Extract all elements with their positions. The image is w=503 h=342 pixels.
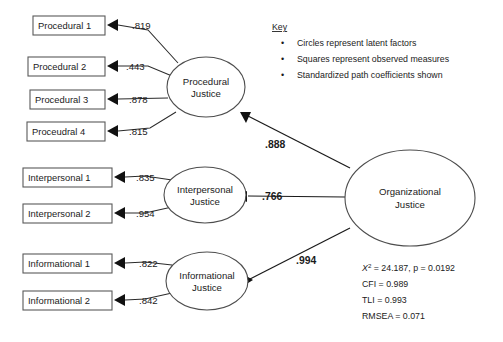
observed-label-interpersonal-2: Interpersonal 2 [28, 208, 91, 219]
structural-value-interpersonal: .766 [262, 191, 282, 202]
observed-label-procedural-2: Procedural 2 [33, 61, 86, 72]
loading-value-procedural-4: .815 [129, 126, 148, 137]
structural-value-informational: .994 [296, 255, 316, 266]
chi-square-rest: = 24.187, p = 0.0192 [371, 263, 455, 273]
fit-statistics: X2 = 24.187, p = 0.0192 CFI = 0.989 TLI … [361, 262, 455, 322]
latent-ellipse-interpersonal[interactable] [164, 167, 246, 223]
latent-label-procedural-line1: Procedural [183, 76, 229, 87]
structural-coefficient-labels: .888 .766 .994 [262, 139, 316, 266]
latent-factor-interpersonal[interactable]: Interpersonal Justice [164, 167, 246, 223]
latent-ellipse-procedural[interactable] [167, 57, 245, 117]
key-item-3: Standardized path coefficients shown [297, 70, 443, 80]
observed-label-procedural-3: Procedural 3 [35, 94, 88, 105]
key-item-1: Circles represent latent factors [297, 38, 417, 48]
observed-label-procedural-4: Proceudral 4 [32, 126, 85, 137]
observed-label-procedural-1: Procedural 1 [38, 20, 91, 31]
loading-value-informational-2: .842 [139, 295, 158, 306]
arrowhead-informational-2 [114, 294, 125, 306]
key-bullet-icon: • [281, 70, 284, 80]
latent-label-organizational-line2: Justice [395, 199, 425, 210]
arrowhead-procedural [240, 112, 251, 123]
arrowhead-procedural-2 [107, 60, 118, 72]
loading-value-informational-1: .822 [139, 258, 158, 269]
latent-factor-informational[interactable]: Informational Justice [166, 252, 248, 310]
sem-diagram: Procedural 1 Procedural 2 Procedural 3 P… [0, 0, 503, 342]
observed-label-informational-2: Informational 2 [28, 295, 90, 306]
observed-label-informational-1: Informational 1 [28, 258, 90, 269]
loading-value-procedural-3: .878 [129, 94, 148, 105]
fit-stat-tli: TLI = 0.993 [362, 295, 407, 305]
loading-value-interpersonal-1: .835 [136, 172, 155, 183]
arrowhead-informational-1 [114, 257, 125, 269]
fit-stat-rmsea: RMSEA = 0.071 [362, 311, 425, 321]
key-title: Key [272, 22, 288, 32]
arrowhead-procedural-1 [107, 19, 118, 31]
key-legend: Key • Circles represent latent factors •… [272, 22, 450, 80]
latent-ellipse-organizational[interactable] [345, 150, 475, 246]
sem-canvas: Procedural 1 Procedural 2 Procedural 3 P… [0, 0, 503, 342]
latent-factor-organizational[interactable]: Organizational Justice [345, 150, 475, 246]
fit-stat-cfi: CFI = 0.989 [362, 279, 408, 289]
latent-label-informational-line2: Justice [192, 282, 222, 293]
arrowhead-procedural-3 [107, 93, 118, 105]
loading-value-procedural-2: .443 [126, 61, 145, 72]
structural-path-to-procedural [248, 116, 350, 168]
key-bullet-icon: • [281, 38, 284, 48]
loading-value-interpersonal-2: .954 [136, 208, 155, 219]
latent-label-procedural-line2: Justice [191, 88, 221, 99]
latent-label-informational-line1: Informational [179, 270, 234, 281]
latent-label-interpersonal-line2: Justice [190, 196, 220, 207]
fit-stat-chi-square: X2 = 24.187, p = 0.0192 [361, 262, 455, 274]
latent-label-interpersonal-line1: Interpersonal [177, 184, 233, 195]
key-bullet-icon: • [281, 54, 284, 64]
arrowhead-interpersonal-2 [114, 207, 125, 219]
structural-path-to-informational [250, 228, 350, 279]
key-item-2: Squares represent observed measures [297, 54, 450, 64]
latent-factor-procedural[interactable]: Procedural Justice [167, 57, 245, 117]
latent-ellipse-informational[interactable] [166, 252, 248, 310]
arrowhead-procedural-4 [107, 125, 118, 137]
structural-value-procedural: .888 [265, 139, 285, 150]
observed-label-interpersonal-1: Interpersonal 1 [28, 172, 91, 183]
observed-measure-boxes: Procedural 1 Procedural 2 Procedural 3 P… [23, 16, 112, 310]
loading-value-procedural-1: .819 [132, 20, 151, 31]
latent-label-organizational-line1: Organizational [379, 186, 441, 197]
arrowhead-interpersonal-1 [114, 171, 125, 183]
